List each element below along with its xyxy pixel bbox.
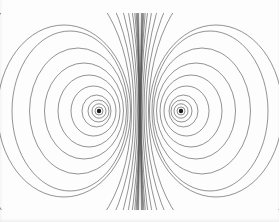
field-loop-left — [0, 0, 136, 222]
field-line-diagram — [0, 0, 279, 222]
field-loop-right — [141, 0, 279, 222]
field-loop-left — [30, 48, 127, 174]
field-loop-left — [82, 95, 111, 127]
field-loop-left — [0, 0, 134, 222]
field-loop-right — [149, 0, 280, 222]
field-loop-left — [0, 0, 140, 222]
field-loop-left — [45, 63, 124, 159]
pole-dot-left — [97, 109, 101, 113]
pole-dot-right — [179, 109, 183, 113]
field-loop-left — [0, 0, 139, 222]
field-loop-right — [141, 0, 279, 222]
field-loop-left — [0, 0, 139, 222]
field-lines-group — [0, 0, 279, 222]
field-loop-left — [0, 0, 139, 222]
field-loop-right — [141, 0, 279, 222]
figure-canvas — [0, 0, 279, 222]
field-loop-right — [141, 0, 279, 222]
field-loop-left — [0, 0, 139, 222]
field-loop-right — [146, 0, 279, 222]
field-loop-left — [0, 0, 132, 222]
field-loop-right — [154, 48, 251, 174]
field-loop-right — [141, 0, 279, 222]
field-loop-left — [0, 0, 138, 222]
field-loop-right — [169, 95, 198, 127]
field-loop-left — [0, 0, 139, 222]
field-loop-right — [140, 0, 279, 222]
field-loop-right — [157, 63, 236, 159]
